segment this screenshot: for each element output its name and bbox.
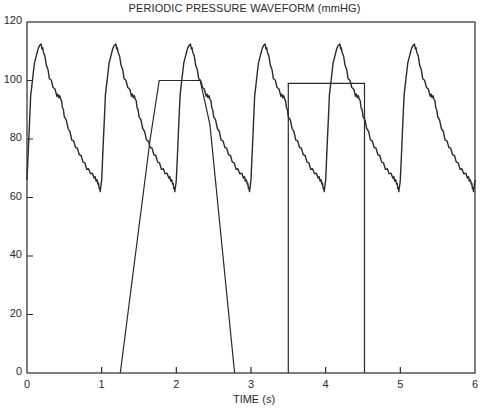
x-axis-title: TIME (s): [214, 393, 294, 405]
y-tick-label: 60: [0, 190, 22, 202]
x-tick-label: 2: [166, 378, 186, 390]
pressure-waveform-line: [27, 44, 475, 192]
x-tick-label: 5: [390, 378, 410, 390]
y-tick-label: 120: [0, 14, 22, 26]
x-tick-label: 1: [92, 378, 112, 390]
trapezoid-pulse-line: [120, 81, 234, 374]
chart-title: PERIODIC PRESSURE WAVEFORM (mmHG): [0, 2, 489, 14]
y-tick-label: 100: [0, 73, 22, 85]
x-tick-label: 4: [316, 378, 336, 390]
x-tick-label: 6: [465, 378, 485, 390]
x-tick-label: 3: [241, 378, 261, 390]
y-tick-label: 40: [0, 248, 22, 260]
axis-ticks: [27, 81, 400, 374]
rectangular-pulse-line: [288, 83, 364, 373]
y-tick-label: 80: [0, 131, 22, 143]
chart-canvas: [0, 0, 489, 410]
x-tick-label: 0: [17, 378, 37, 390]
y-tick-label: 20: [0, 307, 22, 319]
y-tick-label: 0: [0, 365, 22, 377]
plot-frame: [27, 22, 475, 373]
